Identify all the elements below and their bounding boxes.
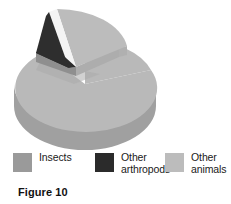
legend-item-other-arthropods[interactable]: Other arthropods: [95, 152, 170, 175]
legend-label-other-animals: Other animals: [191, 152, 226, 175]
figure-container: Insects Other arthropods Other animals F…: [0, 0, 231, 204]
legend-label-other-arthropods: Other arthropods: [121, 152, 170, 175]
legend-swatch-insects: [13, 153, 32, 172]
pie-chart: [0, 0, 231, 150]
legend: Insects Other arthropods Other animals: [0, 152, 231, 184]
figure-caption: Figure 10: [18, 186, 68, 198]
legend-swatch-other-arthropods: [95, 153, 114, 172]
pie-chart-svg: [0, 0, 231, 150]
legend-item-insects[interactable]: Insects: [13, 152, 72, 172]
legend-label-insects: Insects: [39, 152, 72, 164]
legend-item-other-animals[interactable]: Other animals: [165, 152, 226, 175]
legend-swatch-other-animals: [165, 153, 184, 172]
